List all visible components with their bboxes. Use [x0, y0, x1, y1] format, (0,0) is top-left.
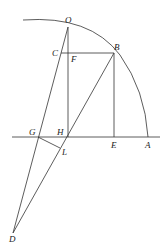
line-BD	[13, 53, 114, 233]
label-E: E	[111, 141, 117, 150]
label-D: D	[9, 235, 16, 244]
label-F: F	[71, 55, 77, 64]
label-H: H	[57, 128, 64, 137]
arc	[23, 19, 148, 137]
geometry-diagram: O B C F G H E A L D	[0, 0, 166, 250]
label-O: O	[65, 16, 72, 25]
label-A: A	[145, 141, 151, 150]
line-GL	[38, 137, 60, 148]
label-B: B	[114, 43, 120, 52]
diagram-lines	[0, 0, 166, 250]
label-L: L	[62, 148, 67, 157]
label-G: G	[29, 128, 36, 137]
label-C: C	[52, 49, 58, 58]
